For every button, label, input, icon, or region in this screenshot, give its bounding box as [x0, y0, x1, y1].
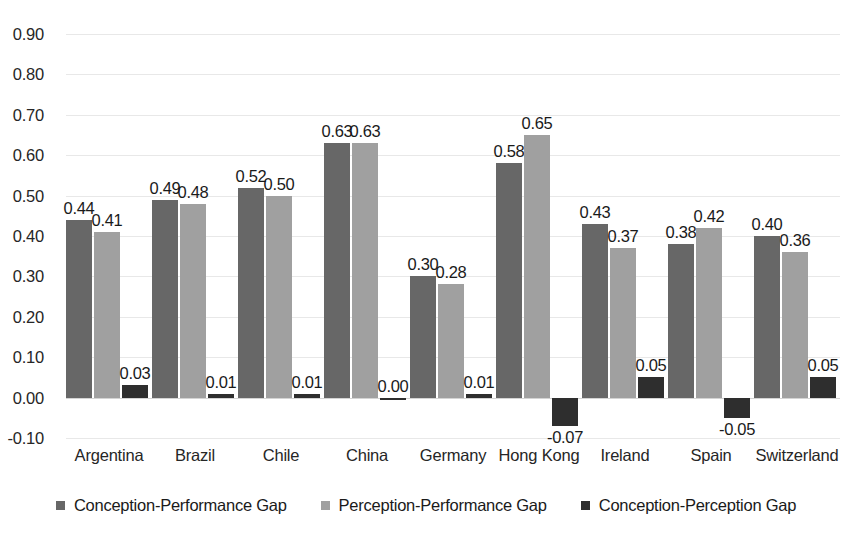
y-axis-tick-label: 0.80 [0, 65, 44, 84]
bar-value-label: 0.00 [378, 377, 409, 396]
bar[interactable] [238, 188, 264, 398]
bar-value-label: 0.05 [636, 356, 667, 375]
bar[interactable] [552, 398, 578, 426]
bar-group: 0.300.280.01 [410, 34, 496, 438]
x-axis-tick-label: China [346, 446, 388, 465]
bar-value-label: 0.37 [608, 227, 639, 246]
bar[interactable] [754, 236, 780, 398]
legend-swatch-icon [581, 501, 590, 510]
bar-value-label: 0.36 [780, 231, 811, 250]
x-axis-tick-label: Brazil [175, 446, 215, 465]
bar[interactable] [466, 394, 492, 398]
bar[interactable] [380, 398, 406, 400]
bar-value-label: 0.28 [436, 263, 467, 282]
bar-value-label: 0.63 [350, 122, 381, 141]
bar-value-label: 0.05 [808, 356, 839, 375]
bar[interactable] [294, 394, 320, 398]
bar-value-label: 0.49 [150, 179, 181, 198]
y-axis-tick-label: 0.90 [0, 25, 44, 44]
x-axis-tick-label: Switzerland [755, 446, 838, 465]
bar[interactable] [724, 398, 750, 418]
bar-value-label: 0.30 [408, 255, 439, 274]
bar-group: 0.440.410.03 [66, 34, 152, 438]
bar[interactable] [324, 143, 350, 398]
bar-value-label: 0.38 [666, 223, 697, 242]
bar-chart: 0.900.800.700.600.500.400.300.200.100.00… [0, 0, 852, 544]
x-axis-tick-label: Hong Kong [499, 446, 580, 465]
bar-value-label: 0.43 [580, 203, 611, 222]
bar-value-label: 0.44 [64, 199, 95, 218]
y-axis-tick-label: -0.10 [0, 429, 44, 448]
bar-value-label: -0.07 [547, 428, 583, 447]
bar-value-label: 0.40 [752, 215, 783, 234]
bar[interactable] [122, 385, 148, 397]
bar[interactable] [266, 196, 292, 398]
bar-value-label: 0.48 [178, 183, 209, 202]
bar[interactable] [696, 228, 722, 398]
bar-group: 0.580.65-0.07 [496, 34, 582, 438]
y-axis-tick-label: 0.40 [0, 227, 44, 246]
y-axis-tick-label: 0.50 [0, 186, 44, 205]
legend-label: Conception-Perception Gap [599, 496, 796, 515]
legend-swatch-icon [321, 501, 330, 510]
bar[interactable] [208, 394, 234, 398]
x-axis-tick-label: Argentina [75, 446, 144, 465]
bar-group: 0.490.480.01 [152, 34, 238, 438]
bar[interactable] [438, 284, 464, 397]
bar[interactable] [810, 377, 836, 397]
legend-item[interactable]: Conception-Performance Gap [56, 496, 287, 515]
plot-area: 0.900.800.700.600.500.400.300.200.100.00… [66, 34, 840, 438]
y-axis-tick-label: 0.70 [0, 105, 44, 124]
bar-group: 0.430.370.05 [582, 34, 668, 438]
bar[interactable] [610, 248, 636, 397]
bar[interactable] [410, 276, 436, 397]
bar-value-label: 0.01 [464, 373, 495, 392]
bar-value-label: 0.03 [120, 364, 151, 383]
x-axis-tick-label: Germany [420, 446, 486, 465]
legend-item[interactable]: Perception-Performance Gap [321, 496, 547, 515]
bar-value-label: 0.52 [236, 167, 267, 186]
bar-value-label: 0.58 [494, 142, 525, 161]
bar[interactable] [524, 135, 550, 398]
bar[interactable] [582, 224, 608, 398]
bar[interactable] [352, 143, 378, 398]
bar-value-label: 0.63 [322, 122, 353, 141]
bar-value-label: 0.42 [694, 207, 725, 226]
bar-group: 0.400.360.05 [754, 34, 840, 438]
legend-swatch-icon [56, 501, 65, 510]
legend-item[interactable]: Conception-Perception Gap [581, 496, 796, 515]
x-axis-labels: ArgentinaBrazilChileChinaGermanyHong Kon… [66, 446, 840, 472]
legend-label: Perception-Performance Gap [339, 496, 547, 515]
y-axis-tick-label: 0.10 [0, 348, 44, 367]
chart-legend: Conception-Performance GapPerception-Per… [0, 496, 852, 515]
bar[interactable] [496, 163, 522, 397]
bar-value-label: 0.65 [522, 114, 553, 133]
bar[interactable] [638, 377, 664, 397]
bar[interactable] [152, 200, 178, 398]
y-axis-tick-label: 0.60 [0, 146, 44, 165]
bar-group: 0.380.42-0.05 [668, 34, 754, 438]
x-axis-tick-label: Chile [263, 446, 300, 465]
bar-group: 0.520.500.01 [238, 34, 324, 438]
bar-group: 0.630.630.00 [324, 34, 410, 438]
bar[interactable] [94, 232, 120, 398]
bar-value-label: 0.01 [206, 373, 237, 392]
x-axis-tick-label: Ireland [600, 446, 649, 465]
legend-label: Conception-Performance Gap [74, 496, 287, 515]
y-axis-tick-label: 0.00 [0, 388, 44, 407]
bar-value-label: 0.01 [292, 373, 323, 392]
y-axis-tick-label: 0.30 [0, 267, 44, 286]
bar-value-label: -0.05 [719, 420, 755, 439]
bar-value-label: 0.41 [92, 211, 123, 230]
bar[interactable] [668, 244, 694, 398]
bar[interactable] [180, 204, 206, 398]
x-axis-tick-label: Spain [690, 446, 731, 465]
bar-value-label: 0.50 [264, 175, 295, 194]
bar[interactable] [782, 252, 808, 397]
bar[interactable] [66, 220, 92, 398]
y-axis-tick-label: 0.20 [0, 307, 44, 326]
